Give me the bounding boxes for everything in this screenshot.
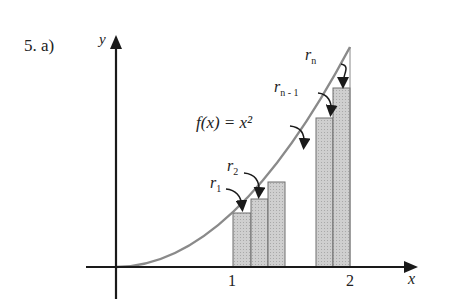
problem-label: 5. a) — [24, 36, 54, 56]
label-rn: rn — [305, 46, 316, 66]
rect-rn — [333, 88, 350, 267]
tick-2: 2 — [346, 272, 354, 290]
y-axis-label: y — [99, 31, 106, 48]
x-axis-label: x — [408, 270, 415, 288]
function-label: f(x) = x² — [196, 113, 252, 133]
label-r2: r2 — [227, 157, 238, 177]
riemann-sum-figure — [0, 0, 452, 299]
label-r1: r1 — [210, 174, 221, 194]
rect-r3 — [268, 182, 285, 267]
diagram: 5. a) y x 1 2 f(x) = x² r1 r2 rn - 1 rn — [0, 0, 452, 299]
rect-r2 — [251, 199, 268, 267]
tick-1: 1 — [228, 272, 236, 290]
rect-r1 — [233, 213, 251, 267]
label-rn-1: rn - 1 — [274, 78, 299, 98]
rect-rn-1 — [316, 118, 333, 267]
